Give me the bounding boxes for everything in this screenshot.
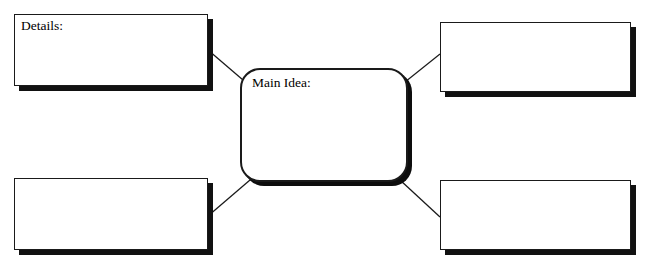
main-idea-box[interactable]: Main Idea: <box>240 68 408 182</box>
detail-box-bottom-left[interactable] <box>14 178 208 250</box>
detail-box-top-right[interactable] <box>440 22 631 92</box>
main-idea-label: Main Idea: <box>252 74 311 91</box>
connector-center-to-bottom-right <box>400 180 440 217</box>
detail-box-top-left[interactable]: Details: <box>14 14 208 86</box>
detail-box-bottom-right[interactable] <box>440 180 631 250</box>
detail-box-top-left-label: Details: <box>21 17 63 34</box>
connector-center-to-bottom-left <box>208 180 250 216</box>
graphic-organizer: Details: Main Idea: <box>0 0 649 272</box>
